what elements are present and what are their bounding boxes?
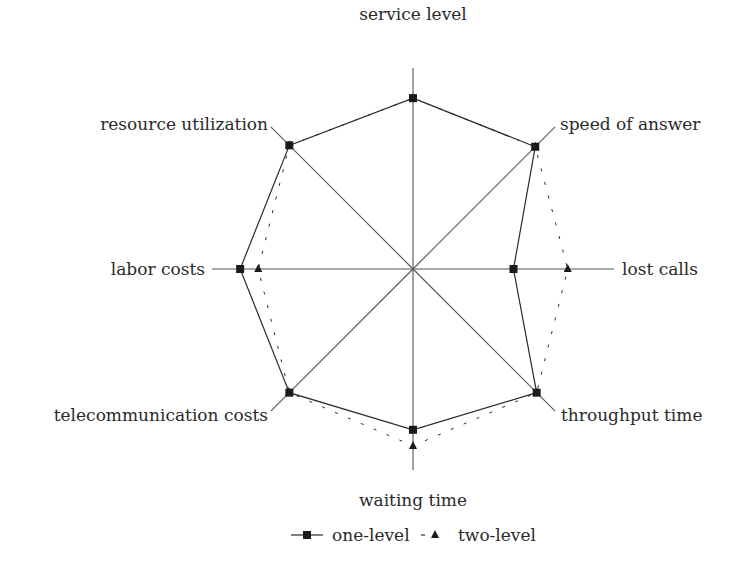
series-one-level	[240, 98, 537, 430]
square-marker-icon	[409, 94, 417, 102]
axis-labels: service levelspeed of answerlost callsth…	[54, 4, 703, 510]
legend-one-level-label: one-level	[332, 525, 410, 545]
axis-label-labor-costs: labor costs	[111, 259, 205, 279]
legend-triangle-marker-icon	[431, 530, 439, 538]
triangle-marker-icon	[564, 264, 572, 272]
triangle-marker-icon	[254, 264, 262, 272]
square-marker-icon	[236, 265, 244, 273]
radar-chart: service levelspeed of answerlost callsth…	[0, 0, 747, 576]
triangle-marker-icon	[409, 441, 417, 449]
axis-label-speed-of-answer: speed of answer	[560, 114, 701, 134]
legend: one-level two-level	[291, 525, 536, 545]
square-marker-icon	[285, 141, 293, 149]
axis-label-service-level: service level	[359, 4, 467, 24]
legend-square-marker-icon	[303, 531, 311, 539]
legend-two-level-label: two-level	[458, 525, 536, 545]
radar-series	[236, 93, 572, 449]
square-marker-icon	[533, 389, 541, 397]
square-marker-icon	[409, 426, 417, 434]
axis-label-telecommunication-costs: telecommunication costs	[54, 405, 268, 425]
axis-label-waiting-time: waiting time	[359, 490, 467, 510]
axis-label-resource-utilization: resource utilization	[100, 114, 268, 134]
axis-label-throughput-time: throughput time	[561, 405, 702, 425]
square-marker-icon	[285, 389, 293, 397]
axis-label-lost-calls: lost calls	[622, 259, 698, 279]
radar-axes	[212, 68, 614, 470]
square-marker-icon	[510, 265, 518, 273]
square-marker-icon	[531, 143, 539, 151]
